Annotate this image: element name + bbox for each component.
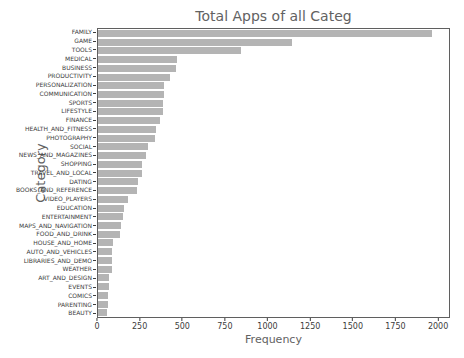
bar-business: [98, 65, 176, 72]
category-label: SOCIAL: [70, 144, 92, 150]
y-tick-mark: [93, 41, 96, 42]
category-label: COMICS: [68, 293, 92, 299]
category-label: COMMUNICATION: [40, 91, 92, 97]
category-label: DATING: [69, 179, 92, 185]
y-tick-row: MAPS_AND_NAVIGATION: [0, 221, 96, 230]
y-tick-mark: [93, 67, 96, 68]
bar-comics: [98, 292, 108, 299]
y-tick-mark: [93, 216, 96, 217]
y-tick-mark: [93, 120, 96, 121]
y-tick-mark: [93, 269, 96, 270]
y-tick-row: DATING: [0, 177, 96, 186]
category-label: SPORTS: [69, 100, 92, 106]
bar-tools: [98, 47, 241, 54]
bar-health_and_fitness: [98, 126, 156, 133]
bar-row: [98, 73, 449, 82]
x-axis-title: Frequency: [97, 333, 450, 346]
category-label: PERSONALIZATION: [36, 82, 92, 88]
bar-news_and_magazines: [98, 152, 146, 159]
y-tick-mark: [93, 190, 96, 191]
bar-row: [98, 160, 449, 169]
x-tick-label: 1000: [257, 322, 277, 331]
bar-parenting: [98, 301, 108, 308]
y-tick-row: BOOKS_AND_REFERENCE: [0, 186, 96, 195]
bar-row: [98, 274, 449, 283]
bar-row: [98, 64, 449, 73]
bar-travel_and_local: [98, 170, 142, 177]
y-tick-mark: [93, 102, 96, 103]
bar-row: [98, 256, 449, 265]
category-label: PRODUCTIVITY: [48, 73, 92, 79]
y-tick-mark: [93, 313, 96, 314]
y-tick-row: VIDEO_PLAYERS: [0, 195, 96, 204]
bar-row: [98, 204, 449, 213]
category-label: BUSINESS: [62, 65, 92, 71]
x-tick-mark: [310, 318, 311, 321]
bar-row: [98, 300, 449, 309]
x-tick-750: 750: [217, 318, 232, 331]
category-label: MAPS_AND_NAVIGATION: [19, 223, 92, 229]
y-tick-row: AUTO_AND_VEHICLES: [0, 248, 96, 257]
x-axis-ticks: 025050075010001250150017502000: [97, 318, 450, 334]
x-tick-label: 500: [175, 322, 190, 331]
bar-row: [98, 116, 449, 125]
category-label: EVENTS: [68, 284, 92, 290]
x-tick-1750: 1750: [385, 318, 405, 331]
category-label: VIDEO_PLAYERS: [44, 196, 92, 202]
bar-beauty: [98, 309, 107, 316]
bar-row: [98, 38, 449, 47]
bar-libraries_and_demo: [98, 257, 112, 264]
y-tick-row: TOOLS: [0, 46, 96, 55]
bar-row: [98, 108, 449, 117]
y-tick-mark: [93, 93, 96, 94]
y-tick-row: PRODUCTIVITY: [0, 72, 96, 81]
bar-row: [98, 134, 449, 143]
y-tick-row: FINANCE: [0, 116, 96, 125]
y-tick-row: BUSINESS: [0, 63, 96, 72]
bar-row: [98, 143, 449, 152]
bar-house_and_home: [98, 239, 113, 246]
bar-medical: [98, 56, 177, 63]
bar-row: [98, 99, 449, 108]
x-tick-1250: 1250: [300, 318, 320, 331]
bar-entertainment: [98, 213, 123, 220]
category-label: ENTERTAINMENT: [42, 214, 92, 220]
bar-food_and_drink: [98, 231, 120, 238]
category-label: TRAVEL_AND_LOCAL: [31, 170, 92, 176]
y-tick-mark: [93, 111, 96, 112]
y-tick-row: GAME: [0, 37, 96, 46]
y-tick-row: FOOD_AND_DRINK: [0, 230, 96, 239]
y-tick-row: HOUSE_AND_HOME: [0, 239, 96, 248]
category-label: EDUCATION: [57, 205, 92, 211]
y-tick-mark: [93, 208, 96, 209]
bar-row: [98, 177, 449, 186]
y-tick-mark: [93, 287, 96, 288]
bar-communication: [98, 91, 164, 98]
bar-row: [98, 230, 449, 239]
bar-row: [98, 265, 449, 274]
category-label: PHOTOGRAPHY: [46, 135, 92, 141]
y-tick-mark: [93, 146, 96, 147]
category-label: MEDICAL: [65, 56, 92, 62]
x-tick-label: 0: [94, 322, 99, 331]
y-tick-row: FAMILY: [0, 28, 96, 37]
y-tick-row: TRAVEL_AND_LOCAL: [0, 169, 96, 178]
x-tick-label: 1250: [300, 322, 320, 331]
bar-shopping: [98, 161, 142, 168]
category-label: NEWS_AND_MAGAZINES: [19, 152, 92, 158]
y-tick-mark: [93, 251, 96, 252]
bar-row: [98, 282, 449, 291]
y-tick-row: LIFESTYLE: [0, 107, 96, 116]
bar-weather: [98, 266, 112, 273]
x-tick-mark: [139, 318, 140, 321]
category-label: FOOD_AND_DRINK: [36, 231, 92, 237]
y-tick-mark: [93, 128, 96, 129]
bar-row: [98, 81, 449, 90]
y-tick-row: SHOPPING: [0, 160, 96, 169]
y-tick-row: PHOTOGRAPHY: [0, 133, 96, 142]
x-tick-2000: 2000: [428, 318, 448, 331]
bar-game: [98, 39, 292, 46]
bar-row: [98, 247, 449, 256]
y-tick-mark: [93, 164, 96, 165]
y-tick-row: MEDICAL: [0, 54, 96, 63]
